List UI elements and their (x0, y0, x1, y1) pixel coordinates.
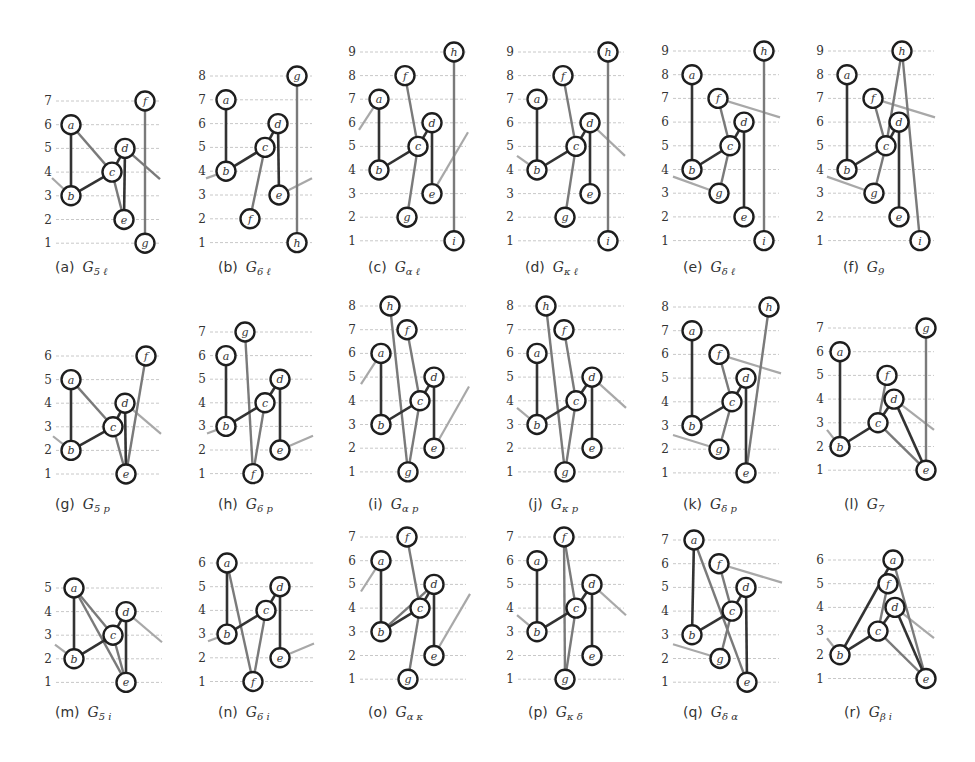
node-c: c (257, 601, 276, 620)
node-label: h (765, 301, 772, 314)
node-label: a (534, 347, 541, 360)
node-label: a (378, 347, 385, 360)
node-label: e (741, 211, 748, 224)
node-g: g (710, 184, 729, 203)
y-tick-label: 6 (198, 349, 206, 363)
y-tick-label: 2 (506, 649, 514, 663)
panel-caption: (j)Gκ p (528, 496, 579, 514)
y-tick-label: 8 (506, 299, 514, 313)
node-c: c (721, 136, 740, 155)
panel-caption: (q)Gδ α (683, 704, 738, 722)
node-a: a (372, 551, 391, 570)
panel-caption: (n)G6 i (218, 704, 270, 722)
node-label: g (403, 211, 410, 224)
node-label: d (588, 578, 595, 591)
y-tick-label: 2 (816, 648, 824, 662)
y-tick-label: 3 (348, 187, 356, 201)
node-e: e (583, 439, 602, 458)
panel-d: 987654321abcdefghi(d)Gκ ℓ (506, 43, 625, 278)
y-tick-label: 6 (348, 116, 356, 130)
node-c: c (104, 626, 123, 645)
y-tick-label: 8 (198, 69, 206, 83)
panel-k: 87654321abcdefgh(k)Gδ p (661, 298, 781, 515)
y-tick-label: 7 (506, 92, 514, 106)
node-e: e (890, 207, 909, 226)
node-label: e (589, 442, 596, 455)
y-tick-label: 3 (506, 625, 514, 639)
y-tick-label: 1 (816, 672, 824, 686)
edge-d-e (894, 399, 926, 470)
y-tick-label: 8 (661, 300, 669, 314)
node-label: b (688, 629, 695, 642)
node-b: b (62, 186, 81, 205)
node-label: g (241, 326, 248, 339)
node-label: a (378, 555, 385, 568)
node-label: g (561, 211, 568, 224)
y-tick-label: 1 (816, 463, 824, 477)
y-tick-label: 2 (198, 443, 206, 457)
node-label: e (431, 650, 438, 663)
node-label: b (533, 626, 540, 639)
y-tick-label: 6 (661, 115, 669, 129)
node-label: b (222, 420, 229, 433)
y-tick-label: 3 (44, 628, 52, 642)
y-tick-label: 3 (198, 627, 206, 641)
y-tick-label: 5 (661, 139, 669, 153)
y-tick-label: 5 (506, 370, 514, 384)
panel-caption: (k)Gδ p (683, 496, 737, 514)
node-g: g (398, 208, 417, 227)
node-label: b (836, 441, 843, 454)
edge-c-g (565, 401, 576, 472)
y-tick-label: 7 (506, 530, 514, 544)
y-tick-label: 8 (661, 68, 669, 82)
node-d: d (737, 578, 756, 597)
y-tick-label: 3 (348, 418, 356, 432)
y-tick-label: 1 (506, 234, 514, 248)
node-d: d (735, 113, 754, 132)
node-a: a (217, 346, 236, 365)
y-tick-label: 1 (348, 672, 356, 686)
panel-o: 7654321abcdefg(o)Gα κ (348, 528, 470, 723)
node-d: d (269, 114, 288, 133)
node-e: e (270, 186, 289, 205)
node-c: c (411, 391, 430, 410)
y-tick-label: 2 (348, 210, 356, 224)
panel-j: 87654321abcdefgh(j)Gκ p (506, 297, 626, 515)
node-d: d (885, 390, 904, 409)
node-label: b (836, 649, 843, 662)
node-label: a (837, 346, 844, 359)
y-tick-label: 2 (816, 210, 824, 224)
y-tick-label: 4 (348, 163, 356, 177)
y-tick-label: 8 (348, 69, 356, 83)
edge-c-g (407, 146, 418, 217)
node-f: f (244, 464, 263, 483)
edge-c-f (407, 330, 420, 401)
node-e: e (271, 441, 290, 460)
node-label: i (918, 235, 922, 248)
node-label: b (223, 628, 230, 641)
node-a: a (884, 551, 903, 570)
y-tick-label: 3 (198, 188, 206, 202)
y-tick-label: 5 (816, 577, 824, 591)
node-label: c (110, 629, 116, 642)
y-tick-label: 3 (44, 420, 52, 434)
node-label: i (606, 235, 610, 248)
y-tick-label: 2 (661, 652, 669, 666)
node-label: d (740, 116, 747, 129)
node-f: f (555, 320, 574, 339)
node-e: e (581, 184, 600, 203)
node-label: c (573, 395, 579, 408)
node-i: i (445, 231, 464, 250)
node-b: b (528, 415, 547, 434)
y-tick-label: 6 (348, 346, 356, 360)
y-tick-label: 7 (348, 530, 356, 544)
y-tick-label: 3 (348, 625, 356, 639)
node-h: h (755, 42, 774, 61)
node-f: f (554, 66, 573, 85)
edge-c-f (405, 76, 418, 147)
edge-stub (434, 594, 470, 656)
node-label: b (533, 164, 540, 177)
y-tick-label: 5 (816, 139, 824, 153)
node-h: h (760, 298, 779, 317)
node-d: d (583, 368, 602, 387)
